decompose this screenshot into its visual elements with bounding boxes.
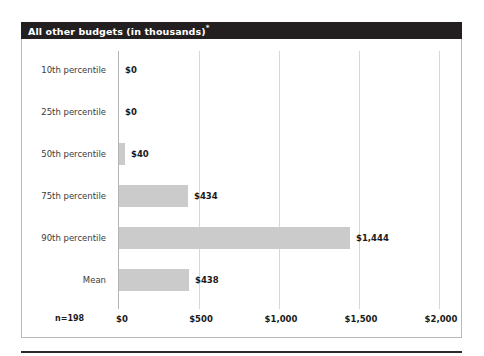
- bar-value-mean: $438: [195, 275, 219, 285]
- bar-value-75th-percentile: $434: [194, 191, 218, 201]
- category-label: 75th percentile: [41, 191, 106, 201]
- sample-size-label: n=198: [55, 314, 84, 323]
- bar-value-25th-percentile: $0: [125, 107, 137, 117]
- bar-row: 75th percentile $434: [21, 185, 462, 207]
- category-label: Mean: [83, 275, 106, 285]
- category-label: 90th percentile: [41, 233, 106, 243]
- bar-90th-percentile: [119, 227, 350, 249]
- bar-row: 90th percentile $1,444: [21, 227, 462, 249]
- x-tick-label-0: $0: [116, 314, 128, 324]
- bar-row: 10th percentile $0: [21, 59, 462, 81]
- bar-mean: [119, 269, 189, 291]
- bar-row: 25th percentile $0: [21, 101, 462, 123]
- bar-row: Mean $438: [21, 269, 462, 291]
- bar-value-10th-percentile: $0: [125, 65, 137, 75]
- x-tick-label-500: $500: [189, 314, 213, 324]
- bar-rows: 10th percentile $0 25th percentile $0 50…: [21, 51, 462, 309]
- x-tick-label-1000: $1,000: [265, 314, 298, 324]
- chart-figure: All other budgets (in thousands)* 10th p…: [0, 0, 484, 356]
- bottom-divider: [21, 351, 462, 353]
- x-tick-label-2000: $2,000: [425, 314, 458, 324]
- plot-area: 10th percentile $0 25th percentile $0 50…: [21, 39, 462, 338]
- category-label: 25th percentile: [41, 107, 106, 117]
- bar-value-90th-percentile: $1,444: [356, 233, 389, 243]
- bar-value-50th-percentile: $40: [131, 149, 149, 159]
- bar-50th-percentile: [119, 143, 125, 165]
- category-label: 50th percentile: [41, 149, 106, 159]
- category-label: 10th percentile: [41, 65, 106, 75]
- bar-75th-percentile: [119, 185, 188, 207]
- title-footnote-marker: *: [206, 24, 210, 32]
- chart-title-bar: All other budgets (in thousands)*: [21, 22, 462, 39]
- x-tick-label-1500: $1,500: [345, 314, 378, 324]
- bar-row: 50th percentile $40: [21, 143, 462, 165]
- chart-title: All other budgets (in thousands)*: [28, 25, 209, 36]
